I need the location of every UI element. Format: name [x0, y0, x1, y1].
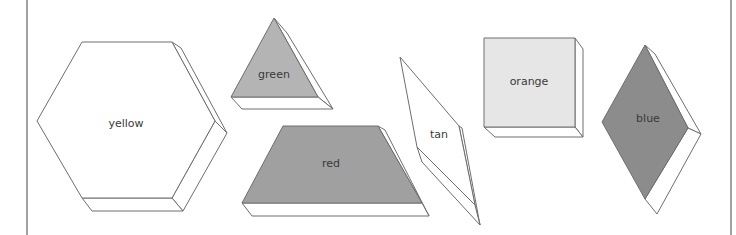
thin-rhombus-label: tan	[430, 128, 448, 141]
block-hexagon-yellow: yellow	[37, 42, 227, 211]
block-triangle-green: green	[231, 18, 333, 109]
diagram-canvas: yellow green red tan orange	[0, 0, 736, 235]
hexagon-side-3	[82, 198, 183, 211]
rhombus-label: blue	[636, 112, 660, 125]
hexagon-label: yellow	[108, 117, 143, 130]
triangle-label: green	[258, 68, 290, 81]
square-label: orange	[510, 75, 549, 88]
trapezoid-side-2	[242, 203, 429, 216]
block-trapezoid-red: red	[242, 126, 429, 216]
block-rhombus-blue: blue	[602, 45, 701, 214]
pattern-blocks-diagram: yellow green red tan orange	[0, 0, 736, 235]
triangle-face	[231, 18, 318, 97]
trapezoid-label: red	[322, 157, 340, 170]
triangle-side-2	[231, 97, 333, 109]
square-side-2	[484, 127, 583, 137]
block-square-orange: orange	[484, 38, 583, 137]
square-side-1	[575, 38, 583, 137]
